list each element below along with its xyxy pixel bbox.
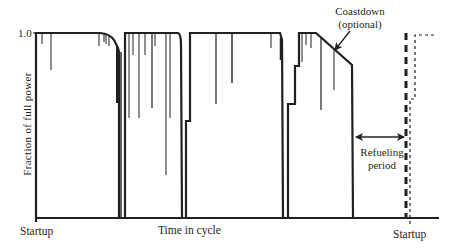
refueling-annotation: Refueling period xyxy=(354,146,410,171)
cycle-segment-3 xyxy=(186,33,283,218)
coastdown-pointer-arrow xyxy=(335,31,350,50)
x-tick-label-startup-right: Startup xyxy=(393,229,426,241)
x-tick-label-startup-left: Startup xyxy=(20,226,53,238)
cycle-segment-2 xyxy=(125,33,182,218)
cycle-segment-4 xyxy=(288,33,353,218)
x-axis-title: Time in cycle xyxy=(158,225,221,237)
next-cycle-thin-dashed xyxy=(410,35,436,224)
coastdown-label-line1: Coastdown xyxy=(320,5,400,18)
power-history-chart xyxy=(0,0,462,252)
coastdown-label-line2: (optional) xyxy=(320,18,400,31)
coastdown-annotation: Coastdown (optional) xyxy=(320,5,400,30)
y-axis-title: Fraction of full power xyxy=(21,59,33,189)
axes xyxy=(33,32,439,222)
y-tick-label-top: 1.0 xyxy=(18,28,32,39)
cycle-segment-1 xyxy=(36,33,121,218)
refueling-label-line2: period xyxy=(354,159,410,172)
refueling-label-line1: Refueling xyxy=(354,146,410,159)
